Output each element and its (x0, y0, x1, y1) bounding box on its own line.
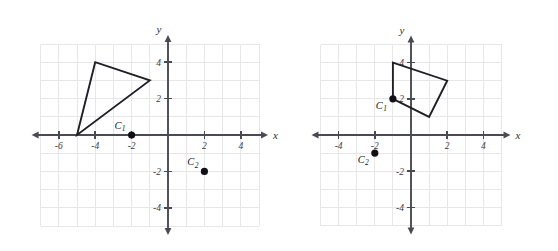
point-label-C1: C1 (376, 100, 387, 113)
y-axis-arrow-bottom (408, 228, 415, 235)
point-label-subscript: 1 (122, 124, 126, 133)
x-axis-tick-label: 2 (445, 141, 450, 151)
y-axis-arrow-bottom (165, 228, 172, 235)
x-axis-tick-label: -4 (335, 141, 343, 151)
x-axis-arrow-left (312, 132, 319, 139)
point-label-C2: C2 (187, 156, 198, 169)
y-axis-tick-label: -2 (396, 167, 404, 177)
y-axis-tick-label: 2 (156, 94, 161, 104)
left-labels: xyC1C2 (114, 23, 278, 170)
y-axis-label: y (399, 24, 405, 36)
center-point-C1 (128, 131, 135, 138)
y-axis-tick-label: -4 (396, 203, 404, 213)
x-axis-tick-label: -2 (371, 141, 379, 151)
point-label-subscript: 2 (365, 158, 369, 167)
x-axis-label: x (272, 129, 278, 141)
shape-quadrilateral (393, 63, 447, 117)
x-axis-arrow-right (261, 132, 268, 139)
right-coordinate-plane: -4-22442-2-4 xyC1C2 (279, 0, 558, 251)
x-axis-label: x (515, 129, 521, 141)
x-axis-tick-label: -6 (55, 141, 63, 151)
x-axis-tick-label: 2 (202, 141, 207, 151)
point-label-subscript: 2 (195, 161, 199, 170)
center-point-C2 (371, 150, 378, 157)
point-label-C2: C2 (358, 154, 369, 167)
x-axis-tick-label: -2 (128, 141, 136, 151)
center-point-C1 (389, 95, 396, 102)
point-label-subscript: 1 (383, 104, 387, 113)
y-axis-label: y (156, 23, 162, 35)
y-axis-tick-label: -2 (153, 167, 161, 177)
coordinate-plane-figure: -6-4-22442-2-4 xyC1C2 -4-22442-2-4 xyC1C… (0, 0, 558, 251)
left-plot-svg: -6-4-22442-2-4 xyC1C2 (0, 0, 279, 251)
y-axis-tick-label: -4 (153, 203, 161, 213)
x-axis-tick-label: 4 (481, 141, 486, 151)
right-shapes (393, 63, 447, 117)
x-axis-arrow-left (32, 132, 39, 139)
y-axis-arrow-top (408, 36, 415, 43)
y-axis-arrow-top (165, 35, 172, 42)
x-axis-tick-label: 4 (238, 141, 243, 151)
right-plot-svg: -4-22442-2-4 xyC1C2 (279, 0, 558, 251)
point-label-C1: C1 (114, 120, 125, 133)
center-point-C2 (201, 168, 208, 175)
x-axis-tick-label: -4 (91, 141, 99, 151)
left-coordinate-plane: -6-4-22442-2-4 xyC1C2 (0, 0, 279, 251)
right-axes (312, 36, 511, 235)
x-axis-arrow-right (504, 132, 511, 139)
y-axis-tick-label: 4 (156, 58, 161, 68)
